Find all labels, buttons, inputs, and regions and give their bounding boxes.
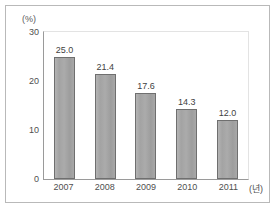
bar-series: 25.0 21.4 17.6 14.3 12.0 (44, 32, 248, 179)
bar-slot-2010: 14.3 (166, 32, 207, 179)
x-axis-tick-2007: 2007 (43, 182, 84, 192)
x-axis-unit-label: (년) (249, 182, 263, 195)
chart-figure: (%) 30 20 10 0 25.0 21.4 17.6 14.3 (0, 0, 276, 209)
bar-value-label-2011: 12.0 (219, 108, 237, 118)
y-axis-tick-30: 30 (29, 27, 39, 37)
bar-2008[interactable] (95, 74, 116, 179)
y-axis-tick-10: 10 (29, 125, 39, 135)
bar-2009[interactable] (135, 93, 156, 179)
bar-slot-2011: 12.0 (207, 32, 248, 179)
x-axis-tick-2010: 2010 (167, 182, 208, 192)
y-axis-tick-20: 20 (29, 76, 39, 86)
y-axis-unit-label: (%) (22, 14, 36, 24)
plot-area: 30 20 10 0 25.0 21.4 17.6 14.3 12 (43, 31, 249, 180)
bar-value-label-2010: 14.3 (178, 97, 196, 107)
x-axis-tick-2008: 2008 (84, 182, 125, 192)
bar-value-label-2007: 25.0 (56, 45, 74, 55)
bar-slot-2009: 17.6 (126, 32, 167, 179)
bar-slot-2008: 21.4 (85, 32, 126, 179)
bar-2010[interactable] (176, 109, 197, 179)
x-axis-tick-2009: 2009 (125, 182, 166, 192)
bar-value-label-2009: 17.6 (137, 81, 155, 91)
x-axis-ticks: 2007 2008 2009 2010 2011 (43, 182, 249, 192)
bar-value-label-2008: 21.4 (96, 62, 114, 72)
bar-slot-2007: 25.0 (44, 32, 85, 179)
x-axis-tick-2011: 2011 (208, 182, 249, 192)
bar-2011[interactable] (217, 120, 238, 179)
y-axis-tick-0: 0 (34, 174, 39, 184)
bar-2007[interactable] (54, 57, 75, 179)
